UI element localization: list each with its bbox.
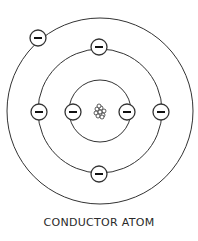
electron xyxy=(91,39,107,55)
diagram-caption: CONDUCTOR ATOM xyxy=(0,216,198,229)
electron xyxy=(30,30,46,46)
electron xyxy=(31,104,47,120)
electron xyxy=(91,166,107,182)
electron xyxy=(153,104,169,120)
electron xyxy=(65,104,81,120)
nucleon xyxy=(100,115,104,119)
electron xyxy=(119,104,135,120)
atom-diagram xyxy=(0,0,198,241)
nucleon xyxy=(102,109,106,113)
nucleon xyxy=(96,114,100,118)
nucleon xyxy=(97,104,101,108)
nucleus xyxy=(94,104,106,119)
